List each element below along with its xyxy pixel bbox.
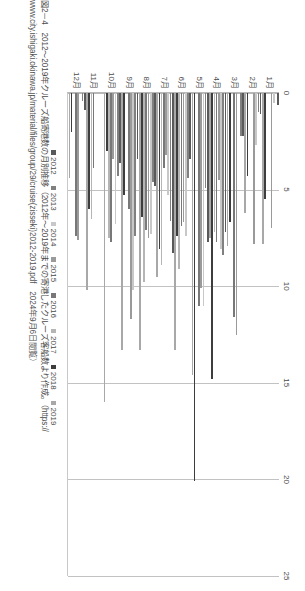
month-bar-group: 6月 <box>174 93 192 576</box>
bar <box>161 93 163 265</box>
bar <box>262 93 264 244</box>
bar <box>218 93 220 180</box>
bar <box>205 93 207 188</box>
legend-label: 2016 <box>49 300 58 318</box>
bar-row <box>273 93 275 576</box>
bar <box>130 93 132 319</box>
bar <box>82 93 84 101</box>
y-axis-month-label: 1月 <box>265 63 276 89</box>
bar-row <box>216 93 218 576</box>
x-axis-tick-label: 15 <box>282 378 291 387</box>
bar-row <box>187 93 189 576</box>
month-bar-group: 8月 <box>138 93 156 576</box>
bar-row <box>277 93 279 576</box>
bar-row <box>115 93 117 576</box>
bar-row <box>262 93 264 576</box>
bar-row <box>260 93 262 576</box>
y-axis-month-label: 11月 <box>89 63 100 89</box>
bar-row <box>211 93 213 576</box>
bar-row <box>185 93 187 576</box>
bar-row <box>218 93 220 576</box>
y-axis-month-label: 5月 <box>194 63 205 89</box>
bar <box>181 93 183 226</box>
y-axis-month-label: 2月 <box>247 63 258 89</box>
bar-row <box>132 93 134 576</box>
bar-row <box>130 93 132 576</box>
bar-row <box>269 93 271 576</box>
bar <box>225 93 227 232</box>
bar <box>240 93 242 136</box>
bar-row <box>209 93 211 576</box>
month-bar-group: 2月 <box>244 93 262 576</box>
bar-row <box>93 93 95 576</box>
bar-row <box>80 93 82 576</box>
bar-row <box>119 93 121 576</box>
bar-row <box>150 93 152 576</box>
bar-row <box>126 93 128 576</box>
x-axis-tick-label: 25 <box>282 572 291 581</box>
bar-row <box>255 93 257 576</box>
bar-row <box>145 93 147 576</box>
bar-row <box>240 93 242 576</box>
legend-swatch-icon <box>51 257 56 262</box>
chart-legend: 20122013201420152016201720182019 <box>49 150 58 425</box>
month-bar-group: 10月 <box>103 93 121 576</box>
bar <box>271 93 273 228</box>
bar-row <box>178 93 180 576</box>
bar <box>255 93 257 145</box>
bar <box>119 93 121 163</box>
bar-row <box>110 93 112 576</box>
bar <box>110 93 112 242</box>
bar-row <box>225 93 227 576</box>
bar-row <box>141 93 143 576</box>
bar-row <box>108 93 110 576</box>
gridline <box>68 576 279 577</box>
bar <box>216 93 218 242</box>
month-bar-group: 12月 <box>68 93 86 576</box>
bar-row <box>137 93 139 576</box>
bar-row <box>154 93 156 576</box>
bar-row <box>117 93 119 576</box>
bar <box>264 93 266 199</box>
bar <box>170 93 172 221</box>
bar <box>77 93 79 240</box>
bar-row <box>156 93 158 576</box>
bar <box>113 93 115 159</box>
bar-row <box>275 93 277 576</box>
bar <box>233 93 235 317</box>
bar-row <box>174 93 176 576</box>
bar-row <box>205 93 207 576</box>
bar-row <box>104 93 106 576</box>
bar <box>277 93 279 105</box>
bar <box>106 93 108 151</box>
bar-row <box>86 93 88 576</box>
caption-line-1: 図2－4 2012〜2019年クルーズ船寄港数の月別推移（2012年〜2019年… <box>39 0 51 560</box>
legend-item: 2015 <box>49 257 58 282</box>
bar-row <box>207 93 209 576</box>
bar-row <box>77 93 79 576</box>
bar-row <box>181 93 183 576</box>
bar-row <box>88 93 90 576</box>
bar <box>187 93 189 178</box>
bar <box>244 93 246 213</box>
bar-row <box>91 93 93 576</box>
bar <box>104 93 106 402</box>
bar-row <box>220 93 222 576</box>
bar-row <box>236 93 238 576</box>
legend-label: 2013 <box>49 193 58 211</box>
bar-row <box>170 93 172 576</box>
bar <box>121 93 123 350</box>
bar-row <box>258 93 260 576</box>
bar <box>229 93 231 222</box>
bar-row <box>84 93 86 576</box>
x-axis-tick-label: 5 <box>282 187 291 191</box>
bar <box>108 93 110 238</box>
bar-row <box>163 93 165 576</box>
y-axis-month-label: 9月 <box>124 63 135 89</box>
bar-row <box>172 93 174 576</box>
bar <box>185 93 187 236</box>
y-axis-month-label: 8月 <box>142 63 153 89</box>
bar <box>143 93 145 282</box>
rotated-page-wrapper: 05101520251月2月3月4月5月6月7月8月9月10月11月12月 20… <box>0 0 305 591</box>
bar-row <box>73 93 75 576</box>
